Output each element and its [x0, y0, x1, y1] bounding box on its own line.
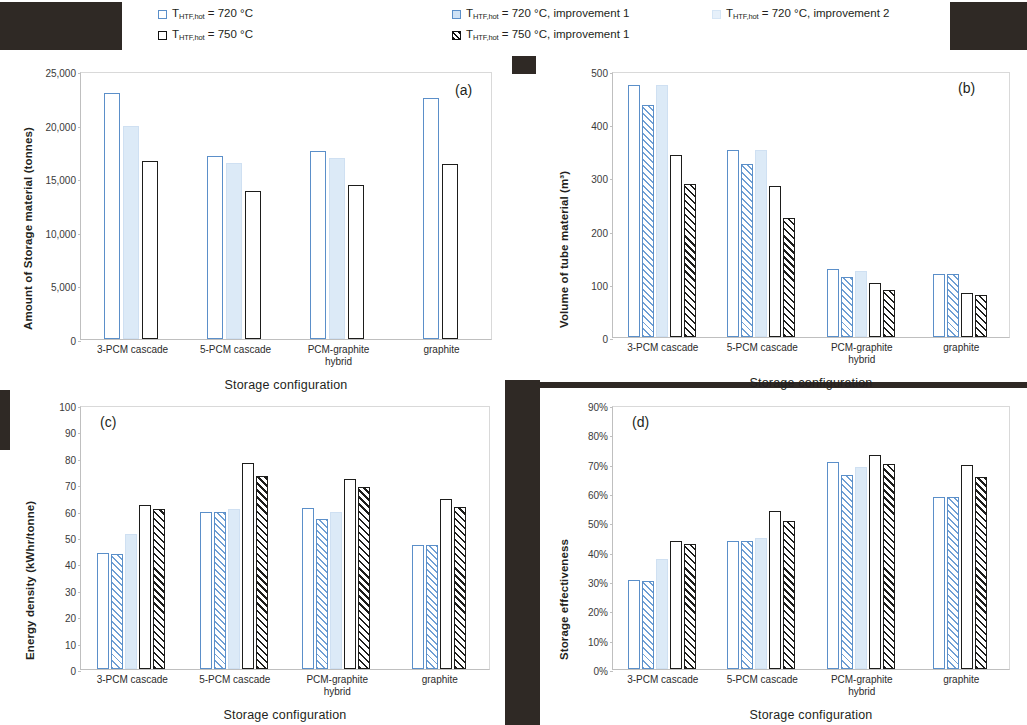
x-axis-category-line: 3-PCM cascade — [613, 342, 713, 354]
y-axis-label: Energy density (kWhr/tonne) — [24, 501, 36, 660]
bar — [769, 511, 781, 669]
x-axis-category-line: 5-PCM cascade — [184, 674, 287, 686]
bar-group — [613, 407, 713, 669]
bar — [423, 98, 439, 339]
y-axis-tick-label: 20,000 — [45, 121, 81, 132]
bar — [961, 293, 973, 337]
x-axis-category-label: PCM-graphitehybrid — [812, 669, 912, 698]
bar — [139, 505, 151, 669]
bar — [741, 164, 753, 337]
bar — [869, 283, 881, 337]
bar-group — [713, 73, 813, 337]
bar — [242, 463, 254, 669]
bar — [947, 274, 959, 337]
panel-tag: (a) — [455, 82, 472, 98]
y-axis-label: Amount of Storage material (tonnes) — [22, 127, 34, 330]
bar — [741, 541, 753, 669]
bar — [412, 545, 424, 669]
y-axis-tick-label: 15,000 — [45, 175, 81, 186]
bar — [207, 156, 223, 339]
bar — [125, 534, 137, 669]
x-axis-category-label: 5-PCM cascade — [184, 339, 287, 356]
x-axis-category-label: PCM-graphitehybrid — [287, 339, 390, 368]
bar — [628, 85, 640, 337]
bar — [684, 184, 696, 337]
legend-label-4: THTF,hot = 720 °C, improvement 2 — [726, 7, 889, 21]
chart-panel-b: Volume of tube material (m³)010020030040… — [540, 58, 1027, 388]
bar — [200, 512, 212, 669]
bar — [670, 541, 682, 669]
bar — [961, 465, 973, 669]
bar — [142, 161, 158, 339]
x-axis-category-line: hybrid — [287, 356, 390, 368]
legend-swatch-750c-imp1-icon — [452, 31, 461, 40]
figure-legend: THTF,hot = 720 °C THTF,hot = 750 °C THTF… — [0, 0, 1027, 56]
bar-group — [912, 73, 1012, 337]
x-axis-label: Storage configuration — [612, 708, 1010, 722]
y-axis-label: Storage effectiveness — [558, 539, 570, 660]
bar — [628, 580, 640, 669]
bar — [656, 559, 668, 669]
bar — [228, 509, 240, 669]
bar — [226, 163, 242, 339]
panel-tag: (c) — [100, 414, 116, 430]
bar — [975, 295, 987, 337]
x-axis-category-line: 3-PCM cascade — [613, 674, 713, 686]
legend-item-2: THTF,hot = 720 °C, improvement 1 — [452, 7, 629, 21]
bar — [933, 497, 945, 669]
bar-group — [286, 407, 389, 669]
bar — [841, 277, 853, 337]
bar — [302, 508, 314, 669]
plot-area: 05,00010,00015,00020,00025,0003-PCM casc… — [80, 72, 492, 340]
y-axis-label: Volume of tube material (m³) — [558, 171, 570, 328]
bar — [442, 164, 458, 339]
x-axis-label: Storage configuration — [80, 708, 490, 722]
x-axis-category-line: hybrid — [286, 686, 389, 698]
bar — [329, 158, 345, 339]
x-axis-category-label: 5-PCM cascade — [184, 669, 287, 686]
bar — [440, 499, 452, 669]
bar — [755, 150, 767, 337]
bar — [344, 479, 356, 669]
bar — [783, 521, 795, 669]
x-axis-category-line: PCM-graphite — [286, 674, 389, 686]
legend-label-3: THTF,hot = 750 °C, improvement 1 — [466, 28, 629, 42]
x-axis-category-line: graphite — [912, 674, 1012, 686]
x-axis-category-label: 3-PCM cascade — [81, 339, 184, 356]
x-axis-category-line: hybrid — [812, 354, 912, 366]
bar — [975, 477, 987, 669]
chart-panel-c: Energy density (kWhr/tonne)0102030405060… — [0, 392, 512, 725]
y-axis-tick-label: 10,000 — [45, 228, 81, 239]
bar — [869, 455, 881, 669]
bar — [426, 545, 438, 669]
bar-group — [812, 73, 912, 337]
bar — [783, 218, 795, 337]
bar — [316, 519, 328, 669]
bar — [348, 185, 364, 339]
bar — [684, 544, 696, 669]
bar — [841, 475, 853, 669]
x-axis-category-line: 5-PCM cascade — [713, 342, 813, 354]
legend-item-3: THTF,hot = 750 °C, improvement 1 — [452, 28, 629, 42]
bar — [310, 151, 326, 339]
x-axis-category-line: graphite — [390, 344, 493, 356]
bar — [214, 512, 226, 669]
x-axis-category-label: graphite — [912, 669, 1012, 686]
plot-area: 01020304050607080901003-PCM cascade5-PCM… — [80, 406, 490, 670]
x-axis-category-line: 5-PCM cascade — [713, 674, 813, 686]
bar — [153, 509, 165, 669]
plot-area: 01002003004005003-PCM cascade5-PCM casca… — [612, 72, 1010, 338]
bar — [245, 191, 261, 339]
scan-artifact-top-mid — [512, 56, 536, 74]
legend-label-1: THTF,hot = 750 °C — [172, 28, 253, 42]
bar-group — [912, 407, 1012, 669]
legend-item-4: THTF,hot = 720 °C, improvement 2 — [712, 7, 889, 21]
bar — [769, 186, 781, 337]
x-axis-category-label: 3-PCM cascade — [613, 669, 713, 686]
legend-swatch-720c-imp2-icon — [712, 10, 721, 19]
legend-item-1: THTF,hot = 750 °C — [158, 28, 253, 42]
bar-group — [287, 73, 390, 339]
y-axis-tick-label: 25,000 — [45, 68, 81, 79]
chart-panel-d: Storage effectiveness0%10%20%30%40%50%60… — [540, 392, 1027, 725]
y-axis-tick-label: 5,000 — [51, 282, 81, 293]
